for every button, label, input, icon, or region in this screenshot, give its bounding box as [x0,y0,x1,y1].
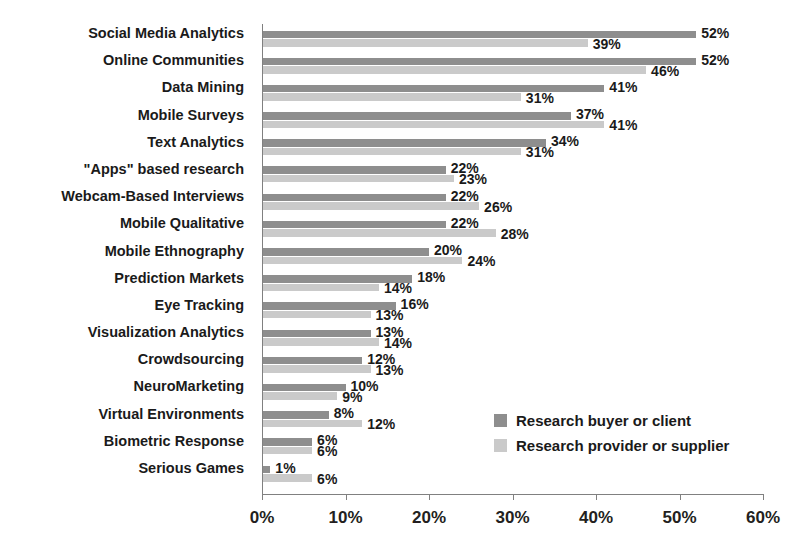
chart-row: Serious Games1%6% [0,459,792,486]
bar-value-label: 12% [367,418,395,430]
bar-provider [262,338,379,346]
bar-value-label: 46% [651,65,679,77]
x-tick-mark [513,494,514,500]
chart-row: Prediction Markets18%14% [0,269,792,296]
category-label: Text Analytics [4,135,244,150]
chart-row: Crowdsourcing12%13% [0,350,792,377]
x-tick-mark [763,494,764,500]
chart-row: Mobile Surveys37%41% [0,106,792,133]
bar-value-label: 14% [384,337,412,349]
bar-provider [262,66,646,74]
bar-value-label: 34% [551,135,579,147]
chart-row: Data Mining41%31% [0,78,792,105]
x-tick-mark [346,494,347,500]
bar-value-label: 41% [609,81,637,93]
x-tick-label: 40% [579,508,613,528]
bar-buyer [262,438,312,446]
bar-provider [262,93,521,101]
bar-buyer [262,31,696,39]
bar-provider [262,311,371,319]
bar-provider [262,257,462,265]
x-tick-mark [429,494,430,500]
category-label: Eye Tracking [4,298,244,313]
bar-buyer [262,248,429,256]
chart-row: Online Communities52%46% [0,51,792,78]
bar-provider [262,229,496,237]
bar-value-label: 20% [434,244,462,256]
bar-provider [262,175,454,183]
bar-buyer [262,221,446,229]
category-label: Prediction Markets [4,271,244,286]
chart-title [240,0,570,7]
bar-value-label: 28% [501,228,529,240]
chart-row: Visualization Analytics13%14% [0,323,792,350]
legend-item-provider: Research provider or supplier [494,433,729,458]
bar-value-label: 22% [451,190,479,202]
legend-swatch-icon-buyer [494,414,507,427]
category-label: Crowdsourcing [4,352,244,367]
legend-label-buyer: Research buyer or client [516,412,691,429]
bar-buyer [262,411,329,419]
bar-value-label: 37% [576,108,604,120]
bar-buyer [262,357,362,365]
bar-value-label: 6% [317,445,337,457]
bar-value-label: 16% [401,298,429,310]
bar-value-label: 41% [609,119,637,131]
bar-value-label: 31% [526,92,554,104]
bar-provider [262,148,521,156]
chart-legend: Research buyer or client Research provid… [494,408,729,458]
bar-value-label: 24% [467,255,495,267]
bar-value-label: 39% [593,38,621,50]
x-tick-mark [596,494,597,500]
bar-value-label: 1% [275,462,295,474]
chart-row: Mobile Ethnography20%24% [0,242,792,269]
bar-chart: Social Media Analytics52%39%Online Commu… [0,0,792,556]
category-label: Mobile Surveys [4,108,244,123]
chart-row: NeuroMarketing10%9% [0,377,792,404]
chart-row: "Apps" based research22%23% [0,160,792,187]
x-tick-label: 60% [746,508,780,528]
x-tick-label: 0% [250,508,275,528]
bar-provider [262,474,312,482]
bar-provider [262,284,379,292]
bar-buyer [262,58,696,66]
x-tick-label: 10% [328,508,362,528]
bar-provider [262,39,588,47]
chart-row: Eye Tracking16%13% [0,296,792,323]
bar-buyer [262,112,571,120]
x-tick-mark [262,494,263,500]
bar-value-label: 23% [459,173,487,185]
category-label: Webcam-Based Interviews [4,189,244,204]
bar-provider [262,202,479,210]
bar-buyer [262,194,446,202]
category-label: Data Mining [4,80,244,95]
category-label: NeuroMarketing [4,379,244,394]
bar-value-label: 13% [376,309,404,321]
category-label: "Apps" based research [4,162,244,177]
category-label: Mobile Ethnography [4,244,244,259]
category-label: Mobile Qualitative [4,216,244,231]
bar-provider [262,420,362,428]
bar-value-label: 8% [334,407,354,419]
bar-value-label: 52% [701,27,729,39]
category-label: Virtual Environments [4,407,244,422]
bar-provider [262,121,604,129]
chart-row: Mobile Qualitative22%28% [0,214,792,241]
legend-swatch-icon-provider [494,439,507,452]
bar-value-label: 31% [526,146,554,158]
bar-provider [262,392,337,400]
x-tick-label: 30% [495,508,529,528]
bar-value-label: 6% [317,473,337,485]
bar-provider [262,447,312,455]
bar-value-label: 26% [484,201,512,213]
bar-value-label: 14% [384,282,412,294]
x-tick-mark [680,494,681,500]
bar-buyer [262,166,446,174]
x-tick-label: 50% [662,508,696,528]
category-label: Social Media Analytics [4,26,244,41]
bar-buyer [262,384,346,392]
bar-provider [262,365,371,373]
y-axis-line [262,24,263,494]
category-label: Visualization Analytics [4,325,244,340]
bar-buyer [262,139,546,147]
